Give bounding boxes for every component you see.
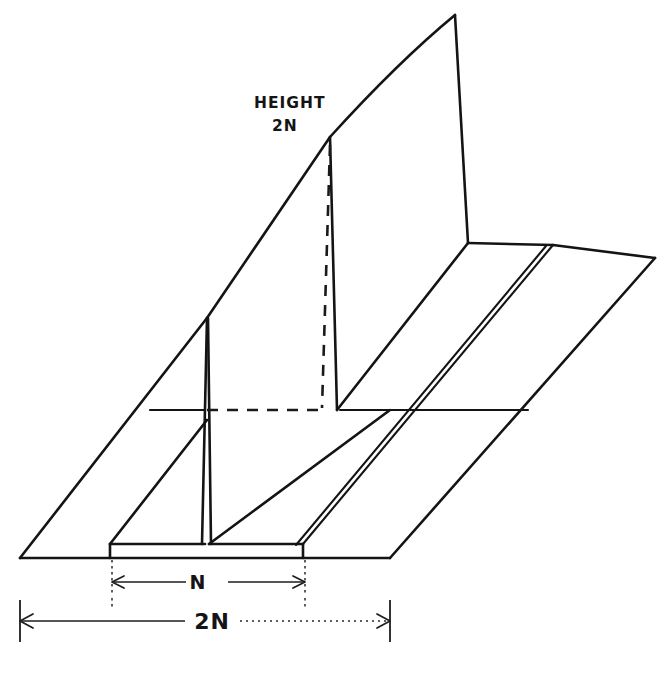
dim-n-label: N — [190, 571, 207, 593]
height-label-line2: 2N — [272, 117, 298, 135]
height-annotation: HEIGHT 2N — [254, 94, 326, 135]
height-label-line1: HEIGHT — [254, 94, 326, 112]
dimension-2n-group: 2N — [20, 598, 390, 642]
dim-2n-label: 2N — [194, 609, 230, 634]
isometric-blade-diagram: HEIGHT 2N N — [0, 0, 670, 681]
face-fills — [20, 15, 655, 558]
dimension-n-group: N — [112, 560, 305, 596]
diagram-canvas: HEIGHT 2N N — [0, 0, 670, 681]
base-back-top-edge — [553, 245, 655, 258]
